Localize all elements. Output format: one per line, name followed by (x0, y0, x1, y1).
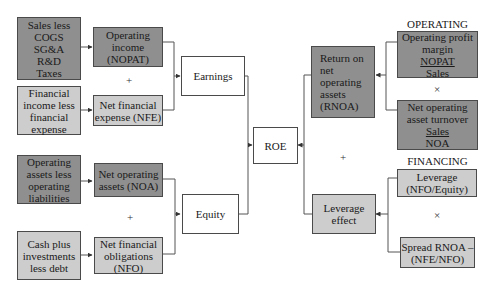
text-line: income less (23, 99, 75, 111)
text-line: Leverage (417, 171, 458, 183)
equity-box: Equity (182, 194, 239, 234)
net-operating-assets-box: Net operating assets (NOA) (94, 163, 163, 197)
leverage-box: Leverage (NFO/Equity) (397, 169, 477, 197)
operating-profit-margin-box: Operating profit margin NOPAT Sales (397, 31, 478, 78)
text-line: Sales less (28, 19, 70, 31)
text-line: Net operating (98, 168, 158, 180)
text-line: expense (NFE) (95, 111, 161, 123)
text-line: Return on (320, 52, 364, 64)
rnoa-box: Return on net operating assets (RNOA) (311, 46, 375, 118)
operating-income-box: Operating income (NOPAT) (93, 27, 163, 67)
text-line: operating (320, 76, 362, 88)
text-line: obligations (104, 250, 153, 262)
text-line: margin (422, 43, 453, 55)
text-line: asset turnover (407, 113, 468, 125)
text-line: Net operating (407, 101, 467, 113)
text-line: (NFE/NFO) (411, 253, 464, 265)
fraction-numerator: NOPAT (420, 55, 454, 67)
roe-box: ROE (253, 127, 298, 164)
text-line: Operating profit (402, 31, 473, 43)
text-line: (NFO/Equity) (406, 183, 468, 195)
text-line: Cash plus (27, 238, 70, 250)
text-line: Operating (106, 29, 150, 41)
text-line: Spread RNOA – (401, 241, 473, 253)
text-line: COGS (34, 31, 63, 43)
text-line: Leverage (324, 202, 365, 214)
text-line: Operating (27, 156, 71, 168)
fraction-denominator: NOA (426, 137, 450, 149)
text-line: investments (23, 250, 76, 262)
text-line: effect (332, 214, 357, 226)
cash-plus-investments-box: Cash plus investments less debt (17, 231, 81, 280)
text-line: Net financial (100, 238, 157, 250)
text-line: liabilities (29, 192, 70, 204)
text-line: net (320, 64, 333, 76)
plus-operator: + (127, 211, 133, 223)
net-financial-obligations-box: Net financial obligations (NFO) (94, 237, 163, 274)
text-line: operating (28, 180, 70, 192)
operating-assets-less-liabilities-box: Operating assets less operating liabilit… (17, 155, 81, 204)
text-line: less debt (30, 262, 68, 274)
equity-label: Equity (196, 208, 225, 220)
text-line: income (112, 41, 144, 53)
text-line: SG&A (34, 43, 65, 55)
earnings-label: Earnings (193, 70, 232, 82)
text-line: financial (30, 111, 68, 123)
spread-box: Spread RNOA – (NFE/NFO) (400, 237, 475, 268)
plus-operator: + (340, 151, 346, 163)
text-line: assets less (27, 168, 72, 180)
text-line: (RNOA) (320, 100, 359, 112)
financing-heading: FINANCING (397, 155, 478, 167)
text-line: (NFO) (114, 262, 143, 274)
times-operator: × (434, 83, 440, 95)
leverage-effect-box: Leverage effect (312, 194, 376, 234)
roe-label: ROE (265, 140, 287, 152)
operating-heading: OPERATING (397, 18, 478, 30)
fraction-numerator: Sales (426, 125, 449, 137)
plus-operator: + (126, 74, 132, 86)
text-line: assets (320, 88, 346, 100)
text-line: expense (31, 123, 66, 135)
sales-less-costs-box: Sales less COGS SG&A R&D Taxes (17, 17, 81, 80)
earnings-box: Earnings (181, 56, 245, 96)
text-line: Net financial (99, 99, 156, 111)
text-line: Taxes (36, 67, 62, 79)
fraction-denominator: Sales (426, 67, 449, 79)
net-financial-expense-box: Net financial expense (NFE) (93, 95, 163, 126)
times-operator: × (434, 209, 440, 221)
text-line: assets (NOA) (99, 180, 159, 192)
financial-income-box: Financial income less financial expense (17, 86, 81, 135)
text-line: Financial (29, 87, 70, 99)
text-line: (NOPAT) (107, 53, 149, 65)
text-line: R&D (37, 55, 61, 67)
net-operating-asset-turnover-box: Net operating asset turnover Sales NOA (397, 100, 478, 150)
